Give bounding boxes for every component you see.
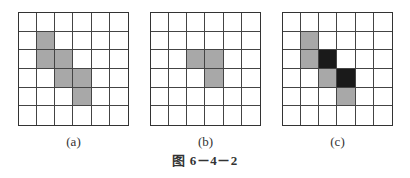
grid-cell [19,88,37,107]
grid-cell [224,69,242,88]
grid-cell [205,88,223,107]
grid-cell [92,50,110,69]
grid-cell-gray [205,50,223,69]
grid-cell [337,50,355,69]
grid-cell [55,88,73,107]
grid-cell [319,88,337,107]
grid-cell [19,32,37,51]
grid-cell [37,88,55,107]
grid-cell-gray [301,32,319,51]
figure-caption: 图 6－4－2 [0,150,410,169]
grid-cell [356,13,374,32]
grid-cell [151,69,169,88]
grid-cell [73,13,91,32]
grid-cell [337,106,355,125]
grid-cell [92,69,110,88]
grid-cell [205,106,223,125]
grid-cell [19,106,37,125]
grid-cell [151,106,169,125]
grid-cell [169,13,187,32]
grid-cell [37,69,55,88]
grid-cell-gray [37,50,55,69]
grid-cell [110,69,128,88]
panel-b: (b) [150,12,261,126]
grid-cell [205,13,223,32]
grid-cell [356,106,374,125]
grid-cell [110,88,128,107]
grid-cell [374,50,392,69]
grid-cell [283,106,301,125]
panel-a: (a) [18,12,129,126]
grid-cell [242,106,260,125]
grid-a [18,12,129,126]
grid-cell [242,69,260,88]
grid-cell-gray [55,50,73,69]
grid-cell [301,69,319,88]
grid-cell [319,32,337,51]
grid-cell [73,106,91,125]
grid-cell [151,50,169,69]
grid-cell [55,13,73,32]
grid-cell-gray [73,88,91,107]
grid-cell [374,106,392,125]
grid-cell [283,32,301,51]
grid-cell [73,50,91,69]
panel-label-a: (a) [18,134,129,150]
grid-cell [374,88,392,107]
grid-cell [73,32,91,51]
grid-cell [169,69,187,88]
grid-cell [37,13,55,32]
grid-cell [224,88,242,107]
grid-cell [151,13,169,32]
grid-cell [110,106,128,125]
grid-cell [169,88,187,107]
grid-cell [187,69,205,88]
grid-cell [169,106,187,125]
grid-cell [187,88,205,107]
grid-cell [319,13,337,32]
grid-cell-gray [55,69,73,88]
panel-c: (c) [282,12,393,126]
grid-cell [224,32,242,51]
grid-cell [283,88,301,107]
grid-cell [224,13,242,32]
grid-cell [283,50,301,69]
grid-cell-gray [205,69,223,88]
grid-cell [337,13,355,32]
grid-cell [55,32,73,51]
grid-cell [242,13,260,32]
grid-cell [301,13,319,32]
panel-label-c: (c) [282,134,393,150]
grid-cell [151,32,169,51]
grid-cell [19,69,37,88]
grid-cell [374,13,392,32]
grid-cell [19,50,37,69]
grid-cell-gray [37,32,55,51]
grid-cell [301,106,319,125]
grid-cell [169,50,187,69]
grid-cell [337,32,355,51]
panel-label-b: (b) [150,134,261,150]
grid-cell [301,88,319,107]
grid-cell [319,106,337,125]
grid-c [282,12,393,126]
grid-cell [169,32,187,51]
grid-cell [242,32,260,51]
grid-cell [92,88,110,107]
grid-cell [55,106,73,125]
grid-cell [374,69,392,88]
grid-cell-black [319,50,337,69]
grid-cell [205,32,223,51]
grid-cell [110,50,128,69]
grid-cell-gray [319,69,337,88]
grid-cell [374,32,392,51]
grid-cell [92,13,110,32]
grid-cell [19,13,37,32]
grid-cell [224,50,242,69]
grid-cell-gray [73,69,91,88]
grid-cell [242,88,260,107]
grid-cell [37,106,55,125]
grid-cell-gray [301,50,319,69]
grid-cell [187,106,205,125]
grid-cell-gray [187,50,205,69]
